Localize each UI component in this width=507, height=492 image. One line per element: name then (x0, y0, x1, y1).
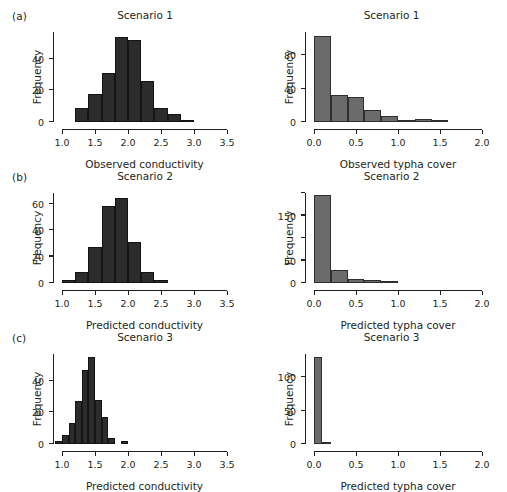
y-axis-tick-label: 20 (32, 85, 44, 96)
y-axis-tick-label: 40 (32, 53, 44, 64)
x-axis-tick (398, 291, 399, 295)
x-axis-tick-label: 0.5 (348, 137, 363, 148)
x-axis-tick-label: 3.5 (219, 298, 234, 309)
chart-title: Scenario 1 (0, 9, 254, 21)
histogram-bar (348, 279, 365, 283)
x-axis-tick-label: 2.0 (474, 137, 489, 148)
x-axis-tick (482, 452, 483, 456)
x-axis-tick-label: 1.5 (87, 459, 102, 470)
histogram-bar (115, 198, 128, 283)
y-axis-line (53, 354, 54, 444)
x-axis-tick (95, 130, 96, 134)
x-axis-tick-label: 3.5 (219, 137, 234, 148)
x-axis-tick-label: 0.0 (306, 459, 321, 470)
x-axis-tick-label: 3.0 (186, 459, 201, 470)
histogram-bar (381, 281, 398, 283)
y-axis-tick-label: 20 (32, 251, 44, 262)
x-axis-label: Predicted conductivity (62, 480, 227, 492)
y-axis-line (53, 32, 54, 122)
histogram-bar (128, 40, 141, 122)
histogram-bar (181, 120, 194, 122)
histogram-bar (128, 242, 141, 283)
y-axis-tick (49, 58, 53, 59)
x-axis-tick (314, 130, 315, 134)
plot-area: Frequency Predicted typha cover 0.00.51.… (314, 354, 482, 444)
y-axis-tick-label: 0 (290, 117, 296, 128)
y-axis-line (305, 32, 306, 122)
x-axis-tick (128, 130, 129, 134)
y-axis-tick-label: 0 (38, 278, 44, 289)
x-axis-tick (440, 291, 441, 295)
x-axis-tick (356, 291, 357, 295)
x-axis-tick (227, 452, 228, 456)
x-axis-tick-label: 1.5 (87, 137, 102, 148)
y-axis-tick-label: 40 (32, 375, 44, 386)
x-axis-tick-label: 3.0 (186, 137, 201, 148)
bars-group (314, 354, 482, 444)
x-axis-tick (161, 452, 162, 456)
x-axis-tick (440, 452, 441, 456)
y-axis-tick (49, 380, 53, 381)
x-axis-tick (356, 130, 357, 134)
y-axis-tick-label: 50 (284, 405, 296, 416)
x-axis-tick-label: 1.0 (54, 137, 69, 148)
x-axis-tick (128, 452, 129, 456)
histogram-bar (141, 272, 154, 283)
x-axis-tick-label: 2.0 (474, 459, 489, 470)
histogram-bar (102, 73, 115, 122)
x-axis-tick-label: 2.5 (153, 459, 168, 470)
x-axis-line (62, 451, 227, 452)
x-axis-tick (227, 130, 228, 134)
x-axis-tick (440, 130, 441, 134)
x-axis-tick-label: 1.5 (432, 298, 447, 309)
x-axis-tick (62, 130, 63, 134)
panel-row-a: (a) Scenario 1 Frequency Observed conduc… (0, 0, 507, 161)
x-axis-tick-label: 1.5 (432, 137, 447, 148)
y-axis-tick (301, 443, 305, 444)
histogram-bar (108, 438, 115, 444)
x-axis-line (62, 129, 227, 130)
x-axis-tick (194, 452, 195, 456)
histogram-bar (331, 95, 348, 123)
histogram-bar (62, 280, 75, 283)
histogram-bar (62, 435, 69, 444)
chart-b-left: Scenario 2 Frequency Predicted conductiv… (0, 161, 254, 322)
y-axis-tick (49, 411, 53, 412)
bars-group (62, 193, 227, 283)
y-axis-tick (301, 282, 305, 283)
x-axis-tick (398, 130, 399, 134)
histogram-bar (381, 116, 398, 122)
x-axis-tick-label: 2.5 (153, 298, 168, 309)
y-axis-tick (49, 443, 53, 444)
x-axis-tick-label: 2.0 (474, 298, 489, 309)
histogram-bar (154, 280, 167, 283)
y-axis-tick-label: 150 (278, 210, 296, 221)
y-axis-tick-label: 0 (38, 117, 44, 128)
chart-title: Scenario 1 (254, 9, 507, 21)
y-axis-tick-label: 80 (284, 50, 296, 61)
histogram-bar (141, 81, 154, 122)
y-axis-tick (301, 214, 305, 215)
plot-area: Frequency Observed conductivity 1.01.52.… (62, 32, 227, 122)
x-axis-tick-label: 1.5 (87, 298, 102, 309)
histogram-bar (348, 97, 365, 122)
y-axis-tick (301, 237, 305, 238)
x-axis-tick-label: 1.0 (54, 459, 69, 470)
histogram-bar (314, 195, 331, 283)
chart-a-left: Scenario 1 Frequency Observed conductivi… (0, 0, 254, 161)
histogram-bar (314, 36, 331, 122)
y-axis-line (305, 193, 306, 283)
histogram-bar (102, 417, 109, 444)
histogram-bar (364, 280, 381, 283)
x-axis-tick-label: 3.5 (219, 459, 234, 470)
bars-group (62, 32, 227, 122)
y-axis-tick (49, 255, 53, 256)
histogram-bar (154, 108, 167, 122)
histogram-bar (314, 357, 322, 444)
histogram-bar (69, 423, 76, 444)
x-axis-tick (161, 291, 162, 295)
x-axis-tick-label: 2.0 (120, 137, 135, 148)
histogram-bar (55, 441, 62, 444)
x-axis-tick (128, 291, 129, 295)
